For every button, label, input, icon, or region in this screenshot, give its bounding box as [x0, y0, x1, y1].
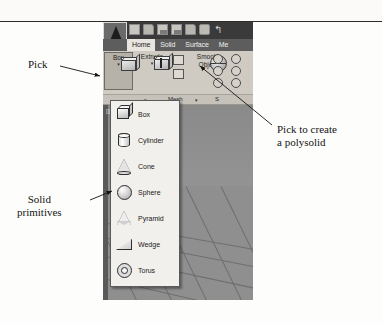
- plot-preview-icon[interactable]: [185, 24, 196, 35]
- solid-edit-icon-2[interactable]: [231, 66, 241, 76]
- dropdown-item-wedge[interactable]: Wedge: [111, 231, 179, 257]
- tab-solid[interactable]: Solid: [155, 39, 180, 51]
- dropdown-item-label: Torus: [138, 267, 155, 274]
- panel-label-solid-editing: S: [215, 96, 219, 102]
- solid-edit-icon-3[interactable]: [231, 78, 241, 88]
- polysolid-icon[interactable]: [173, 69, 184, 79]
- cone-primitive-icon: [114, 156, 134, 176]
- dropdown-item-cylinder[interactable]: Cylinder: [111, 127, 179, 153]
- extrude-button[interactable]: Extrude ▾: [136, 53, 168, 65]
- torus-primitive-icon: [114, 260, 134, 280]
- box-primitive-dropdown: Box Cylinder Cone Sphere Pyramid Wedge T…: [110, 100, 180, 287]
- page-top-margin: [0, 0, 382, 21]
- annotation-solid-primitives: Solid primitives: [17, 193, 62, 219]
- dropdown-item-sphere[interactable]: Sphere: [111, 179, 179, 205]
- dropdown-item-cone[interactable]: Cone: [111, 153, 179, 179]
- solid-edit-icon-1[interactable]: [231, 54, 241, 64]
- refine-mesh-icon[interactable]: [213, 78, 223, 88]
- tab-mesh[interactable]: Me: [214, 39, 234, 51]
- dropdown-item-label: Sphere: [138, 189, 161, 196]
- wedge-primitive-icon: [114, 234, 134, 254]
- dropdown-item-label: Box: [138, 111, 150, 118]
- print-icon[interactable]: [199, 24, 210, 35]
- dropdown-item-pyramid[interactable]: Pyramid: [111, 205, 179, 231]
- annotation-pick: Pick: [28, 58, 48, 71]
- undo-icon[interactable]: ↰: [213, 24, 224, 35]
- new-file-icon[interactable]: [129, 24, 140, 35]
- cylinder-primitive-icon: [114, 130, 134, 150]
- dropdown-item-torus[interactable]: Torus: [111, 257, 179, 283]
- pyramid-primitive-icon: [114, 208, 134, 228]
- tab-home[interactable]: Home: [127, 39, 155, 51]
- mesh-primitive-icon[interactable]: [173, 55, 184, 65]
- annotation-polysolid: Pick to create a polysolid: [277, 123, 337, 149]
- dropdown-item-label: Wedge: [138, 241, 160, 248]
- dropdown-item-label: Cone: [138, 163, 155, 170]
- ribbon: ↰ Home Solid Surface Me Box ▾ Extrude ▾ …: [103, 22, 253, 105]
- box-primitive-icon: [114, 104, 134, 124]
- quick-access-icon-group: ↰: [129, 24, 224, 35]
- sphere-primitive-icon: [114, 182, 134, 202]
- smooth-less-icon[interactable]: [213, 66, 223, 76]
- viewport-left-gutter: [103, 104, 108, 300]
- ribbon-panel-area: Box ▾ Extrude ▾ Smooth Object ▾ Mesh ▾ S: [103, 51, 253, 104]
- dropdown-item-label: Pyramid: [138, 215, 164, 222]
- ribbon-tab-bar: Home Solid Surface Me: [103, 39, 253, 51]
- save-as-icon[interactable]: [171, 24, 182, 35]
- box-button[interactable]: Box ▾: [104, 52, 133, 90]
- dropdown-item-label: Cylinder: [138, 137, 164, 144]
- mesh-panel-caret-icon[interactable]: ▾: [195, 97, 198, 103]
- dropdown-item-box[interactable]: Box: [111, 101, 179, 127]
- tab-surface[interactable]: Surface: [180, 39, 213, 51]
- open-folder-icon[interactable]: [143, 24, 154, 35]
- smooth-more-icon[interactable]: [213, 54, 223, 64]
- save-icon[interactable]: [157, 24, 168, 35]
